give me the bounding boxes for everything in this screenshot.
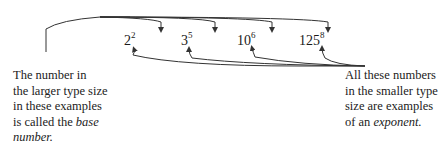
example-125-8: 1258 bbox=[299, 34, 325, 48]
example-2-2: 22 bbox=[124, 34, 136, 48]
example-3-5: 35 bbox=[181, 34, 193, 48]
caption-emphasis: exponent. bbox=[373, 115, 421, 129]
caption-text: of an bbox=[345, 115, 373, 129]
caption-line: number. bbox=[13, 130, 108, 141]
exponent: 8 bbox=[320, 30, 325, 40]
example-10-6: 106 bbox=[237, 34, 256, 48]
base-number: 3 bbox=[181, 33, 188, 48]
caption-line: is called the base bbox=[13, 115, 108, 131]
caption-line: in these examples bbox=[13, 99, 108, 115]
exponent: 2 bbox=[131, 30, 136, 40]
base-number: 10 bbox=[237, 33, 251, 48]
caption-line: in the smaller type bbox=[345, 84, 438, 100]
caption-emphasis: base bbox=[76, 115, 99, 129]
caption-text: is called the bbox=[13, 115, 76, 129]
base-number: 125 bbox=[299, 33, 320, 48]
caption-line: of an exponent. bbox=[345, 115, 438, 131]
base-number-caption: The number in the larger type size in th… bbox=[13, 68, 108, 141]
exponent-caption: All these numbers in the smaller type si… bbox=[345, 68, 438, 130]
exponent: 6 bbox=[251, 30, 256, 40]
caption-emphasis: number. bbox=[13, 130, 53, 141]
caption-line: the larger type size bbox=[13, 84, 108, 100]
base-number: 2 bbox=[124, 33, 131, 48]
exponent: 5 bbox=[188, 30, 193, 40]
caption-line: All these numbers bbox=[345, 68, 438, 84]
caption-line: size are examples bbox=[345, 99, 438, 115]
caption-line: The number in bbox=[13, 68, 108, 84]
